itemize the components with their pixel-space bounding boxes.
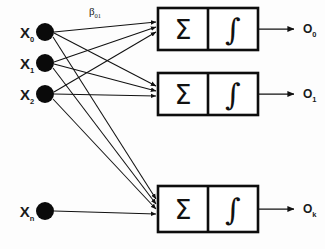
input-nodes: X0X1X2Xn bbox=[20, 23, 54, 223]
input-label-x2: X2 bbox=[20, 86, 34, 106]
activation-symbol-neuronk: ∫ bbox=[225, 192, 241, 227]
edge-xn-to-neuronk bbox=[54, 211, 156, 214]
weight-subscript: 01 bbox=[95, 12, 102, 19]
sum-symbol-neuronk: Σ bbox=[174, 194, 191, 225]
neuron-units: Σ∫O0Σ∫O1Σ∫Ok bbox=[158, 8, 317, 232]
input-node-x1[interactable] bbox=[36, 54, 54, 72]
neuron-unit-neuron1[interactable]: Σ∫O1 bbox=[158, 73, 317, 115]
output-label-neuron1: O1 bbox=[303, 87, 317, 104]
sum-symbol-neuron1: Σ bbox=[174, 79, 191, 110]
edge-x1-to-neuronk bbox=[53, 68, 156, 204]
input-subscript-x0: 0 bbox=[30, 35, 34, 44]
weight-label-beta01: β01 bbox=[89, 5, 101, 19]
output-label-neuronk: Ok bbox=[303, 202, 317, 219]
output-subscript-neuronk: k bbox=[312, 210, 317, 219]
edge-x0-to-neuron0 bbox=[54, 22, 156, 32]
input-label-x1: X1 bbox=[20, 55, 34, 75]
network-canvas: X0X1X2Xn Σ∫O0Σ∫O1Σ∫Ok β01 bbox=[0, 0, 325, 249]
neuron-unit-neuron0[interactable]: Σ∫O0 bbox=[158, 8, 317, 50]
sum-symbol-neuron0: Σ bbox=[174, 14, 191, 45]
connection-edges bbox=[53, 22, 156, 214]
output-label-neuron0: O0 bbox=[303, 22, 317, 39]
edge-x2-to-neuronk bbox=[53, 99, 156, 209]
input-subscript-x1: 1 bbox=[30, 66, 34, 75]
neural-network-diagram: X0X1X2Xn Σ∫O0Σ∫O1Σ∫Ok β01 bbox=[0, 0, 325, 249]
input-subscript-x2: 2 bbox=[30, 97, 34, 106]
neuron-unit-neuronk[interactable]: Σ∫Ok bbox=[158, 186, 317, 232]
edge-x1-to-neuron0 bbox=[54, 27, 156, 62]
output-subscript-neuron1: 1 bbox=[312, 95, 316, 104]
input-node-x2[interactable] bbox=[36, 85, 54, 103]
activation-symbol-neuron0: ∫ bbox=[225, 12, 241, 47]
edge-x0-to-neuronk bbox=[53, 37, 156, 199]
activation-symbol-neuron1: ∫ bbox=[225, 77, 241, 112]
input-label-x0: X0 bbox=[20, 24, 34, 44]
input-node-x0[interactable] bbox=[36, 23, 54, 41]
weight-annotation: β01 bbox=[89, 5, 101, 19]
input-node-xn[interactable] bbox=[36, 202, 54, 220]
input-label-xn: Xn bbox=[20, 203, 35, 223]
edge-x2-to-neuron1 bbox=[54, 94, 156, 96]
output-subscript-neuron0: 0 bbox=[312, 30, 316, 39]
input-subscript-xn: n bbox=[30, 214, 35, 223]
